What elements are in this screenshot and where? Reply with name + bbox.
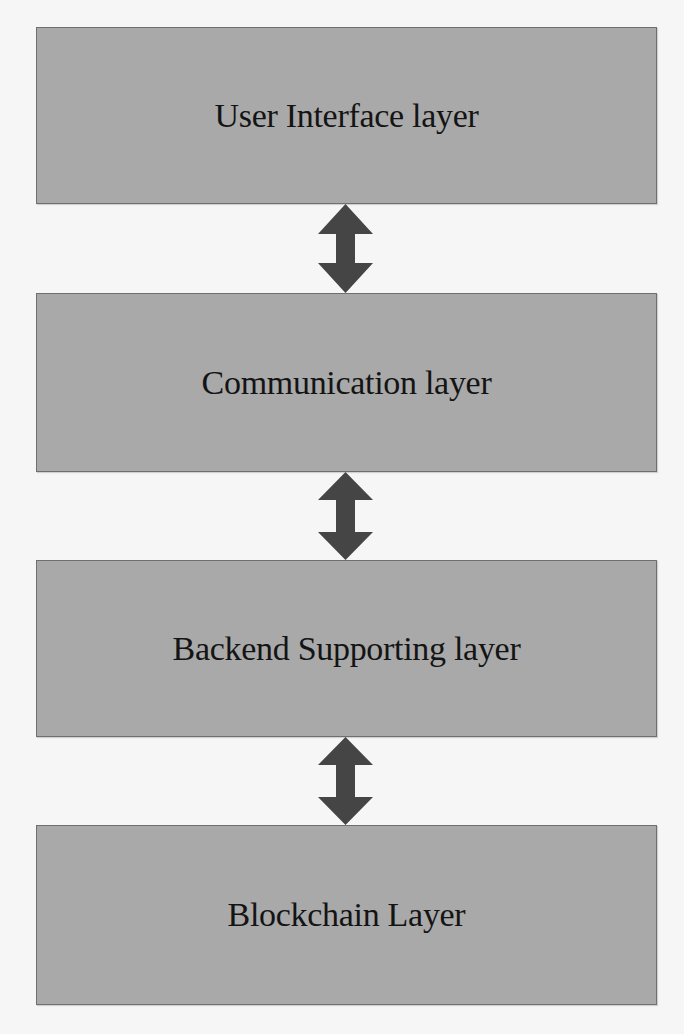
communication-layer-box: Communication layer xyxy=(36,293,657,472)
backend-supporting-layer-box: Backend Supporting layer xyxy=(36,560,657,737)
layer-label: Communication layer xyxy=(202,364,492,402)
user-interface-layer-box: User Interface layer xyxy=(36,27,657,204)
bidirectional-arrow-icon xyxy=(318,204,373,293)
layer-label: Blockchain Layer xyxy=(228,896,466,934)
blockchain-layer-box: Blockchain Layer xyxy=(36,825,657,1005)
layer-label: Backend Supporting layer xyxy=(173,630,521,668)
bidirectional-arrow-icon xyxy=(318,472,373,560)
bidirectional-arrow-icon xyxy=(318,737,373,825)
layer-label: User Interface layer xyxy=(215,97,479,135)
